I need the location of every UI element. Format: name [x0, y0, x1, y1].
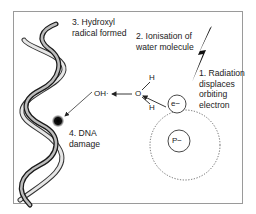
bond-top: [142, 82, 150, 90]
dna-damage-dot-icon: [52, 115, 64, 127]
step-3-line-2: radical formed: [72, 28, 126, 39]
dna-helix-icon: [20, 24, 64, 205]
step-2-label: 2. Ionisation of water molecule: [136, 31, 194, 52]
step-1-line-2: displaces: [199, 79, 245, 90]
hydrogen-bottom-symbol: H: [149, 103, 155, 112]
step-2-line-2: water molecule: [136, 42, 194, 53]
step-1-line-1: 1. Radiation: [199, 68, 245, 79]
step-1-label: 1. Radiation displaces orbiting electron: [199, 68, 245, 110]
step-4-line-2: damage: [69, 139, 100, 150]
step-3-label: 3. Hydroxyl radical formed: [72, 17, 126, 38]
step-1-line-4: electron: [199, 100, 245, 111]
hydroxyl-symbol: OH·: [94, 89, 109, 98]
step-1-line-3: orbiting: [199, 89, 245, 100]
hydroxyl-to-dna-arrow: [65, 92, 92, 116]
step-4-label: 4. DNA damage: [69, 128, 100, 149]
electron-symbol: e−: [171, 99, 180, 108]
step-4-line-1: 4. DNA: [69, 128, 100, 139]
hydrogen-top-symbol: H: [149, 73, 155, 82]
proton-symbol: P−: [172, 136, 182, 145]
step-2-line-1: 2. Ionisation of: [136, 31, 194, 42]
oxygen-symbol: O: [135, 89, 141, 98]
step-3-line-1: 3. Hydroxyl: [72, 17, 126, 28]
